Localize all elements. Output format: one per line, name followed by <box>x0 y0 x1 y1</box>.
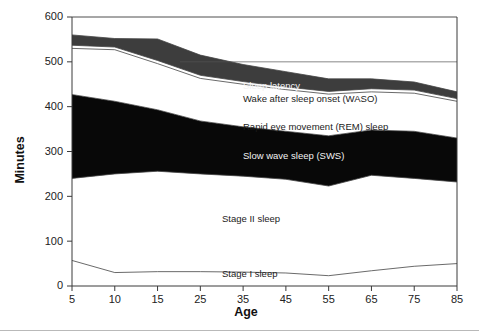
series-label-rem: Rapid eye movement (REM) sleep <box>243 121 388 132</box>
x-tick-label: 35 <box>237 293 249 305</box>
figure-container: 0100200300400500600 5101525354555657585 … <box>0 0 479 335</box>
x-tick-label: 5 <box>69 293 75 305</box>
x-tick-label: 55 <box>323 293 335 305</box>
y-tick-label: 400 <box>45 100 63 112</box>
sleep-architecture-area-chart: 0100200300400500600 5101525354555657585 … <box>0 0 479 335</box>
y-tick-label: 0 <box>57 279 63 291</box>
y-tick-label: 300 <box>45 145 63 157</box>
x-tick-label: 85 <box>451 293 463 305</box>
y-axis-title: Minutes <box>13 136 27 183</box>
x-tick-label: 75 <box>408 293 420 305</box>
series-label-sleep-latency: Sleep latency <box>243 80 300 91</box>
x-tick-label: 10 <box>109 293 121 305</box>
series-label-waso: Wake after sleep onset (WASO) <box>243 93 377 104</box>
y-tick-label: 200 <box>45 190 63 202</box>
series-label-stage-ii: Stage II sleep <box>222 213 280 224</box>
y-tick-label: 600 <box>45 10 63 22</box>
x-axis-title: Age <box>234 305 258 319</box>
y-tick-label: 500 <box>45 55 63 67</box>
x-tick-label: 65 <box>365 293 377 305</box>
series-label-stage-i: Stage I sleep <box>222 268 277 279</box>
x-tick-label: 15 <box>151 293 163 305</box>
series-label-sws: Slow wave sleep (SWS) <box>243 150 344 161</box>
footer-divider <box>0 330 479 331</box>
x-tick-label: 25 <box>194 293 206 305</box>
x-tick-label: 45 <box>280 293 292 305</box>
y-tick-label: 100 <box>45 235 63 247</box>
